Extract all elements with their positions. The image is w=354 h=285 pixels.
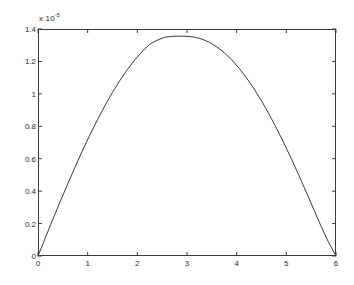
data-series-curve (38, 36, 336, 256)
y-tick-marks (38, 29, 336, 256)
figure-canvas: x 10-5 0 0.2 0.4 0.6 0.8 1 1.2 1.4 0 1 2… (0, 0, 354, 285)
x-tick-marks (38, 29, 336, 256)
plot-svg (0, 0, 354, 285)
